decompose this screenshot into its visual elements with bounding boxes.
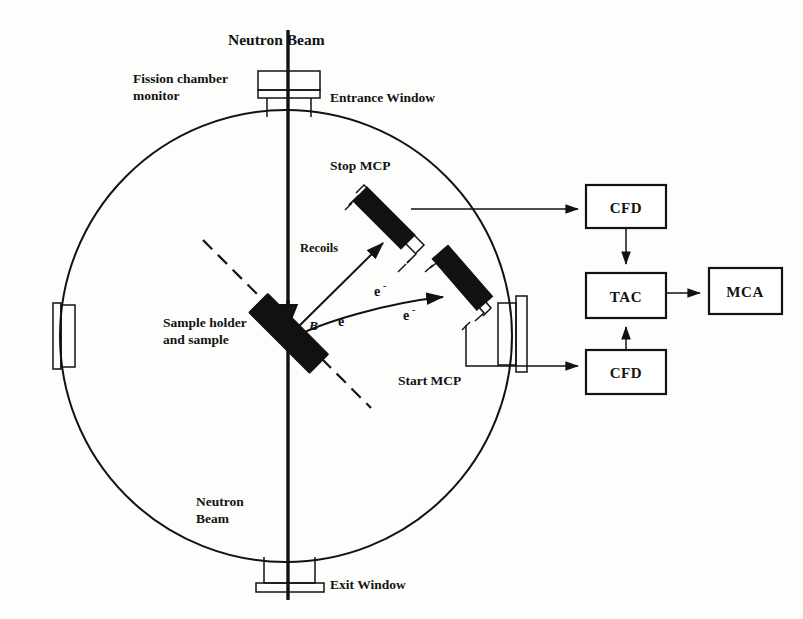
svg-text:-: -: [383, 280, 386, 291]
neutron-beam-bottom-label-line1: Neutron: [196, 494, 244, 509]
neutron-beam-bottom-label-line2: Beam: [196, 511, 230, 526]
figure-canvas: Neutron Beam Fission chamber monitor Ent…: [0, 0, 803, 619]
tac-label: TAC: [610, 289, 642, 305]
exit-window-label: Exit Window: [330, 577, 406, 592]
sample-holder-label-line1: Sample holder: [163, 315, 247, 330]
electron-label-1: e -: [338, 310, 350, 329]
stop-mcp-label: Stop MCP: [330, 158, 390, 173]
fission-chamber-monitor-label-line1: Fission chamber: [133, 71, 228, 86]
svg-text:e: e: [374, 284, 380, 299]
svg-text:-: -: [347, 310, 350, 321]
entrance-window-label: Entrance Window: [330, 90, 435, 105]
recoils-label: Recoils: [300, 241, 338, 255]
svg-text:e: e: [403, 308, 409, 323]
electron-label-2: e -: [374, 280, 386, 299]
start-mcp-detector: [425, 245, 493, 330]
start-mcp-signal-cable: [466, 325, 578, 366]
svg-text:e: e: [338, 314, 344, 329]
scattering-chamber-diagram: Neutron Beam Fission chamber monitor Ent…: [0, 0, 803, 619]
start-mcp-label: Start MCP: [398, 373, 461, 388]
cfd-bottom-label: CFD: [610, 365, 643, 381]
neutron-beam-top-label: Neutron Beam: [228, 31, 325, 48]
electron-label-3: e -: [403, 304, 415, 323]
magnetic-field-label: B: [308, 318, 318, 333]
left-port-flange: [53, 303, 75, 369]
fission-chamber-monitor-label-line2: monitor: [133, 88, 180, 103]
stop-mcp-detector: [345, 185, 424, 272]
cfd-top-label: CFD: [610, 200, 643, 216]
svg-text:-: -: [412, 304, 415, 315]
mca-label: MCA: [726, 284, 764, 300]
sample-holder-label-line2: and sample: [163, 332, 229, 347]
